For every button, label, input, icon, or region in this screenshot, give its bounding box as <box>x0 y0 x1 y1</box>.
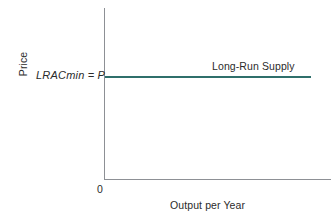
x-axis-label: Output per Year <box>170 199 245 211</box>
y-axis-line <box>104 8 105 180</box>
long-run-supply-label: Long-Run Supply <box>212 60 295 72</box>
price-level-label: LRACmin = P <box>36 69 105 81</box>
y-axis-label: Price <box>17 37 29 91</box>
chart-figure: Price LRACmin = P Long-Run Supply 0 Outp… <box>0 0 333 217</box>
origin-label: 0 <box>97 183 103 195</box>
x-axis-line <box>104 179 331 180</box>
long-run-supply-curve <box>105 76 311 78</box>
